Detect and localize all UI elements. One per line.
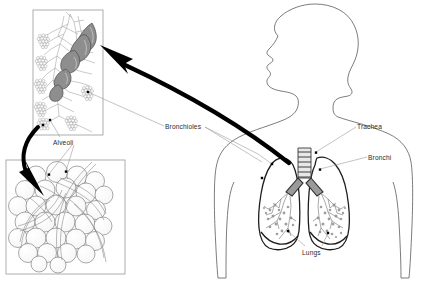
lungs-marker-right	[327, 232, 329, 234]
leader-bronchioles-lung-2	[205, 127, 262, 162]
label-trachea: Trachea	[357, 123, 382, 131]
alveoli-inset-panel	[6, 160, 125, 274]
lungs-marker-left	[287, 230, 289, 232]
bronchioles-marker-left-lung-2	[261, 177, 263, 179]
respiratory-system-diagram: Bronchioles Trachea Bronchi Lungs Alveol…	[0, 0, 423, 289]
alveoli-marker-inset-bottom	[48, 173, 50, 175]
alveoli-marker-inset-extra	[42, 124, 44, 126]
trachea-marker	[315, 151, 317, 153]
leader-trachea	[316, 127, 356, 152]
trachea-tube	[298, 148, 311, 178]
alveoli-marker-inset-bottom-2	[65, 170, 67, 172]
label-lungs: Lungs	[302, 249, 321, 257]
label-bronchi: Bronchi	[368, 154, 391, 162]
bronchi-marker	[319, 168, 321, 170]
bronchioles-marker-left-lung	[271, 163, 273, 165]
label-alveoli: Alveoli	[53, 139, 73, 147]
bronchiole-inset-panel	[33, 10, 103, 135]
alveoli-marker-inset-top	[49, 119, 51, 121]
lung-to-bronchiole-inset-arrow	[125, 65, 289, 163]
leader-bronchioles-lung	[205, 127, 272, 164]
label-bronchioles: Bronchioles	[165, 123, 201, 131]
lung-to-bronchiole-inset-arrowhead	[100, 45, 133, 74]
bronchioles-marker-inset	[87, 91, 89, 93]
